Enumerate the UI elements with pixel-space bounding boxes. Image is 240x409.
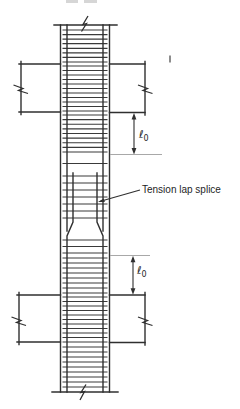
arrowhead-up: [131, 256, 136, 262]
ties-group: [63, 30, 108, 387]
length-subscript: 0: [144, 134, 149, 143]
tension-lap-splice-label: Tension lap splice: [142, 184, 221, 195]
arrowhead-down: [131, 288, 136, 295]
upper-lo-label: ℓ0: [139, 129, 149, 143]
break-symbol: [82, 16, 89, 32]
cropped-text-remnant: [66, 0, 78, 3]
lower-right-beam: [110, 293, 153, 346]
leader-line: [101, 190, 141, 201]
lower-lo-label: ℓ0: [137, 265, 147, 279]
length-subscript: 0: [142, 270, 147, 279]
screenshot-root: Tension lap splice ℓ0 ℓ0: [0, 0, 240, 409]
cropped-text-remnant: [84, 0, 97, 3]
upper-right-beam: [110, 62, 153, 116]
lower-left-beam: [12, 293, 61, 345]
arrowhead-up: [132, 113, 137, 120]
bottom-cut-line: [52, 385, 118, 401]
leader-arrowhead: [98, 198, 105, 202]
upper-left-beam: [14, 62, 61, 115]
splice-leader: [98, 190, 140, 202]
arrowhead-down: [132, 148, 137, 155]
upper-lo-dimension: [110, 113, 162, 155]
column-splice-diagram: [0, 0, 240, 409]
top-cut-line: [54, 16, 117, 32]
